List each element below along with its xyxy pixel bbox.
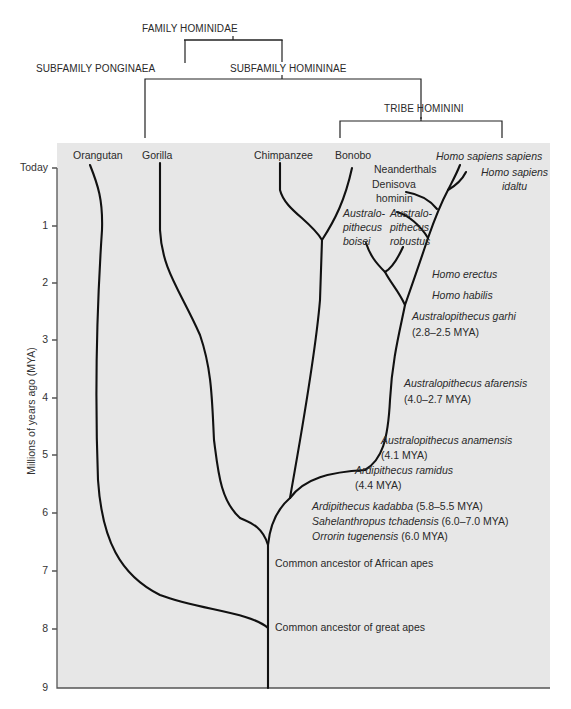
label-boisei-3: boisei — [343, 235, 370, 248]
label-afarensis-date: (4.0–2.7 MYA) — [404, 393, 471, 406]
label-denisova-1: Denisova — [372, 178, 416, 191]
label-homo-sapiens-idaltu-2: idaltu — [502, 180, 527, 193]
family-bracket — [184, 40, 282, 63]
branch-boisei — [366, 243, 405, 305]
tribe-bracket — [340, 121, 502, 138]
label-orangutan: Orangutan — [73, 149, 123, 162]
label-anamensis-date: (4.1 MYA) — [381, 449, 427, 462]
label-common-ancestor-african-apes: Common ancestor of African apes — [275, 557, 433, 570]
y-axis — [52, 168, 550, 688]
label-afarensis-name: Australopithecus afarensis — [404, 377, 527, 390]
tick-today: Today — [8, 161, 48, 173]
label-homo-sapiens-idaltu-1: Homo sapiens — [481, 166, 548, 179]
label-ramidus-name: Ardipithecus ramidus — [355, 464, 453, 477]
label-neanderthals: Neanderthals — [374, 163, 436, 176]
sahelanthropus-name: Sahelanthropus tchadensis — [312, 515, 439, 527]
branch-pan — [290, 240, 322, 498]
label-denisova-2: hominin — [376, 192, 413, 205]
label-gorilla: Gorilla — [142, 149, 172, 162]
subfamily-ponginaea-label: SUBFAMILY PONGINAEA — [36, 62, 155, 75]
orrorin-name: Orrorin tugenensis — [312, 530, 398, 542]
label-orrorin: Orrorin tugenensis (6.0 MYA) — [312, 530, 448, 543]
phylogenetic-tree — [0, 0, 571, 709]
tick-3: 3 — [8, 333, 48, 345]
kadabba-name: Ardipithecus kadabba — [312, 500, 413, 512]
subfamily-homininae-label: SUBFAMILY HOMININAE — [230, 62, 347, 75]
tick-6: 6 — [8, 506, 48, 518]
label-chimpanzee: Chimpanzee — [254, 149, 313, 162]
label-homo-erectus: Homo erectus — [432, 268, 497, 281]
family-hominidae-label: FAMILY HOMINIDAE — [142, 22, 238, 35]
tick-9: 9 — [8, 681, 48, 693]
label-robustus-3: robustus — [390, 235, 430, 248]
kadabba-date: (5.8–5.5 MYA) — [416, 500, 483, 512]
label-bonobo: Bonobo — [335, 149, 371, 162]
y-axis-title: Millions of years ago (MYA) — [25, 346, 37, 476]
label-boisei-1: Australo- — [343, 207, 385, 220]
label-garhi-name: Australopithecus garhi — [412, 310, 516, 323]
tick-7: 7 — [8, 564, 48, 576]
taxonomy-brackets — [145, 36, 502, 138]
tick-2: 2 — [8, 276, 48, 288]
tribe-hominini-label: TRIBE HOMININI — [384, 102, 464, 115]
label-homo-habilis: Homo habilis — [432, 289, 493, 302]
label-boisei-2: pithecus — [343, 221, 382, 234]
label-homo-sapiens-sapiens: Homo sapiens sapiens — [436, 150, 542, 163]
tick-1: 1 — [8, 219, 48, 231]
label-garhi-date: (2.8–2.5 MYA) — [412, 326, 479, 339]
label-robustus-1: Australo- — [390, 207, 432, 220]
orrorin-date: (6.0 MYA) — [401, 530, 447, 542]
subfamily-bracket — [145, 79, 421, 138]
branch-gorilla — [160, 163, 268, 545]
label-common-ancestor-great-apes: Common ancestor of great apes — [275, 621, 425, 634]
label-kadabba: Ardipithecus kadabba (5.8–5.5 MYA) — [312, 500, 483, 513]
label-robustus-2: pithecus — [390, 221, 429, 234]
branch-chimpanzee — [280, 163, 322, 240]
tick-8: 8 — [8, 622, 48, 634]
label-anamensis-name: Australopithecus anamensis — [381, 434, 512, 447]
label-sahelanthropus: Sahelanthropus tchadensis (6.0–7.0 MYA) — [312, 515, 509, 528]
branch-orangutan — [90, 165, 268, 628]
sahelanthropus-date: (6.0–7.0 MYA) — [442, 515, 509, 527]
branch-robustus — [385, 247, 403, 272]
label-ramidus-date: (4.4 MYA) — [355, 479, 401, 492]
